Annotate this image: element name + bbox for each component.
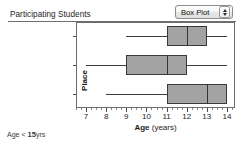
x-axis-tick-label: 9	[117, 112, 135, 122]
x-axis-minor-tick	[182, 108, 183, 110]
x-axis-minor-tick	[141, 108, 142, 110]
x-axis-minor-tick	[222, 108, 223, 110]
y-axis-tick	[73, 94, 76, 95]
plot-canvas: Place Age (years) 7891011121314Queenslan…	[76, 22, 235, 108]
footer-note-suffix: yrs	[36, 131, 45, 138]
x-axis-tick-label: 13	[198, 112, 216, 122]
x-axis-title-bold: Age	[134, 123, 149, 132]
x-axis-tick-label: 10	[137, 112, 155, 122]
x-axis-tick-label: 8	[97, 112, 115, 122]
boxplot-box[interactable]	[167, 84, 227, 104]
page-title: Participating Students	[10, 9, 91, 20]
x-axis-title-rest: (years)	[150, 123, 177, 132]
x-axis-minor-tick	[232, 108, 233, 110]
x-axis-minor-tick	[131, 108, 132, 110]
x-axis-minor-tick	[136, 108, 137, 110]
x-axis-minor-tick	[151, 108, 152, 110]
x-axis-minor-tick	[192, 108, 193, 110]
x-axis-tick-label: 14	[218, 112, 236, 122]
x-axis-minor-tick	[157, 108, 158, 110]
x-axis-minor-tick	[212, 108, 213, 110]
chevron-up-icon	[223, 9, 227, 12]
boxplot-widget: Participating Students Box Plot Place Ag…	[0, 0, 244, 147]
x-axis-minor-tick	[96, 108, 97, 110]
boxplot-median	[207, 84, 208, 104]
x-axis-minor-tick	[81, 108, 82, 110]
boxplot-box[interactable]	[126, 55, 186, 75]
x-axis-minor-tick	[116, 108, 117, 110]
plot-type-select-label: Box Plot	[181, 8, 219, 17]
x-axis-minor-tick	[172, 108, 173, 110]
x-axis-minor-tick	[121, 108, 122, 110]
x-axis-minor-tick	[162, 108, 163, 110]
x-axis-minor-tick	[177, 108, 178, 110]
plot-type-select[interactable]: Box Plot	[175, 5, 233, 19]
x-axis-minor-tick	[197, 108, 198, 110]
footer-note-value: 15	[27, 130, 35, 139]
x-axis-minor-tick	[111, 108, 112, 110]
boxplot-median	[187, 26, 188, 46]
y-axis-tick	[73, 36, 76, 37]
x-axis-title: Age (years)	[76, 123, 235, 133]
footer-note-prefix: Age <	[7, 131, 27, 138]
x-axis-minor-tick	[76, 108, 77, 110]
x-axis-tick-label: 7	[77, 112, 95, 122]
x-axis-minor-tick	[202, 108, 203, 110]
x-axis-minor-tick	[217, 108, 218, 110]
x-axis-tick-label: 11	[158, 112, 176, 122]
footer-note: Age < 15yrs	[7, 130, 45, 139]
x-axis-minor-tick	[101, 108, 102, 110]
x-axis-tick-label: 12	[178, 112, 196, 122]
up-down-chevrons-icon[interactable]	[219, 6, 230, 18]
boxplot-median	[167, 55, 168, 75]
y-axis-tick	[73, 65, 76, 66]
x-axis-minor-tick	[91, 108, 92, 110]
chevron-down-icon	[223, 13, 227, 16]
